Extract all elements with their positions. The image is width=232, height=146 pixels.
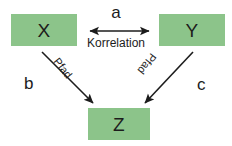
node-z-label: Z — [113, 115, 125, 134]
edge-relation-pfad-right: Pfad — [135, 51, 158, 76]
edge-label-b: b — [24, 75, 33, 92]
edge-label-a: a — [0, 4, 232, 21]
edge-relation-korrelation: Korrelation — [0, 37, 232, 49]
path-diagram: X Y Z a Korrelation b c Pfad Pfad — [0, 0, 232, 146]
edge-label-c: c — [197, 76, 206, 93]
node-z: Z — [88, 108, 150, 140]
edge-relation-pfad-left: Pfad — [51, 56, 74, 81]
